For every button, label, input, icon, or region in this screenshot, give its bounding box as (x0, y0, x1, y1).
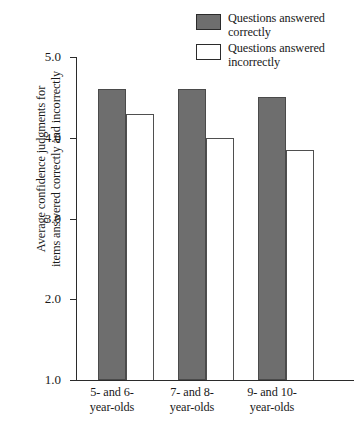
y-axis-title-line2: items answered correctly and incorrectly (49, 34, 64, 304)
legend-label-correct: Questions answered correctly (228, 12, 356, 39)
x-category-label-3: 9- and 10- year-olds (220, 385, 324, 414)
y-tick-label-1: 1.0 (45, 372, 61, 388)
y-axis-title-line1: Average confidence judgments for (34, 34, 49, 304)
y-tick-label-5: 5.0 (45, 49, 61, 65)
legend-swatch-correct-icon (196, 14, 221, 30)
legend-label-correct-line2: correctly (228, 25, 271, 39)
bar-incorrect-group-1 (126, 114, 154, 380)
y-tick-label-4: 4.0 (45, 130, 61, 146)
y-axis-title: Average confidence judgments for items a… (34, 34, 64, 304)
y-tick-mark-1: 1.0 (70, 380, 76, 381)
bar-correct-group-1 (98, 89, 126, 380)
legend-label-correct-line1: Questions answered (228, 11, 325, 25)
bar-incorrect-group-3 (286, 150, 314, 380)
x-axis-line (76, 380, 354, 381)
y-tick-mark-5: 5.0 (70, 57, 76, 58)
plot-area: 5.0 4.0 3.0 2.0 1.0 5- and 6- year-olds … (76, 57, 354, 380)
y-tick-mark-2: 2.0 (70, 299, 76, 300)
y-axis-line (76, 57, 77, 381)
bar-incorrect-group-2 (206, 138, 234, 380)
y-tick-mark-3: 3.0 (70, 219, 76, 220)
x-category-label-3-line2: year-olds (220, 400, 324, 415)
bar-correct-group-3 (258, 97, 286, 380)
bar-chart-figure: Questions answered correctly Questions a… (0, 0, 359, 437)
y-tick-label-3: 3.0 (45, 211, 61, 227)
legend-label-incorrect-line1: Questions answered (228, 41, 325, 55)
legend-item-correct: Questions answered correctly (196, 12, 356, 39)
y-tick-mark-4: 4.0 (70, 138, 76, 139)
x-category-label-3-line1: 9- and 10- (220, 385, 324, 400)
bar-correct-group-2 (178, 89, 206, 380)
y-tick-label-2: 2.0 (45, 291, 61, 307)
